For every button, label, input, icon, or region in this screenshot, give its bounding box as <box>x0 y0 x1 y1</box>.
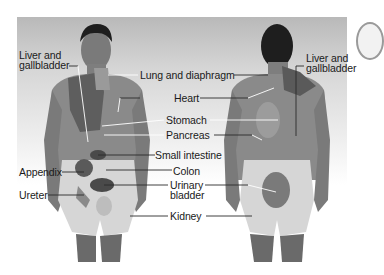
label-lung-diaphragm: Lung and diaphragm <box>140 70 235 80</box>
label-urinary-bladder: Urinary bladder <box>170 180 204 200</box>
label-ureter: Ureter <box>19 190 48 200</box>
label-liver-front: Liver and gallbladder <box>19 50 69 70</box>
label-kidney: Kidney <box>170 211 202 221</box>
label-appendix: Appendix <box>19 167 62 177</box>
label-small-intestine: Small intestine <box>155 150 222 160</box>
label-colon: Colon <box>173 166 200 176</box>
label-liver-back: Liver and gallbladder <box>306 53 356 73</box>
label-stomach: Stomach <box>166 115 207 125</box>
label-liver-front-line2: gallbladder <box>19 60 69 70</box>
label-urinary-line2: bladder <box>170 190 204 200</box>
label-heart: Heart <box>174 93 199 103</box>
label-pancreas: Pancreas <box>166 130 210 140</box>
label-liver-back-line2: gallbladder <box>306 63 356 73</box>
